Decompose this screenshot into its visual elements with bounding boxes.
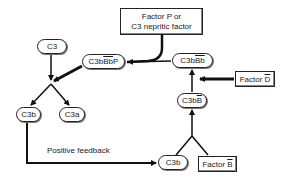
factor-p-line2: C3 nepritic factor xyxy=(131,22,191,32)
c3bbbp-suffix: P xyxy=(113,57,118,66)
factor-p-box: Factor P or C3 nepritic factor xyxy=(120,8,203,35)
positive-feedback-label: Positive feedback xyxy=(47,146,110,155)
c3bbbp-node: C3bBbP xyxy=(82,54,125,69)
c3a-node: C3a xyxy=(59,107,85,122)
c3bbb-overline: Bb xyxy=(195,56,205,65)
factor-d-overline: D xyxy=(265,75,271,84)
c3-label: C3 xyxy=(47,42,57,51)
c3b-left-node: C3b xyxy=(16,107,41,122)
factorb-to-merge-line xyxy=(192,136,208,155)
c3a-label: C3a xyxy=(65,110,80,119)
c3b-bottom-label: C3b xyxy=(166,158,181,167)
factor-d-prefix: Factor xyxy=(240,75,265,84)
c3bbb-node: C3bBb xyxy=(172,53,213,68)
split-to-c3a-arrow xyxy=(51,84,69,105)
factor-b-box: Factor B xyxy=(198,156,237,172)
factor-b-prefix: Factor xyxy=(202,160,227,169)
c3bbbp-overline: Bb xyxy=(103,57,113,66)
c3b-to-merge-line xyxy=(176,136,192,155)
c3bb-node: C3bB xyxy=(177,93,207,108)
c3bbb-to-c3bbbp-arrow xyxy=(128,61,171,62)
c3bbb-prefix: C3b xyxy=(180,56,195,65)
positive-feedback-line xyxy=(27,122,156,163)
c3bb-overline: B xyxy=(197,96,202,105)
factor-p-line1: Factor P or xyxy=(142,12,181,22)
factor-p-connector xyxy=(127,35,162,62)
c3bbbp-to-split-arrow xyxy=(54,66,82,81)
c3-node: C3 xyxy=(37,39,67,54)
factor-b-overline: B xyxy=(227,160,232,169)
c3bbbp-prefix: C3b xyxy=(89,57,104,66)
split-to-c3b-arrow xyxy=(31,84,51,105)
c3b-left-label: C3b xyxy=(21,110,36,119)
c3bb-prefix: C3b xyxy=(182,96,197,105)
c3b-bottom-node: C3b xyxy=(158,155,188,170)
factor-d-box: Factor D xyxy=(235,71,275,87)
